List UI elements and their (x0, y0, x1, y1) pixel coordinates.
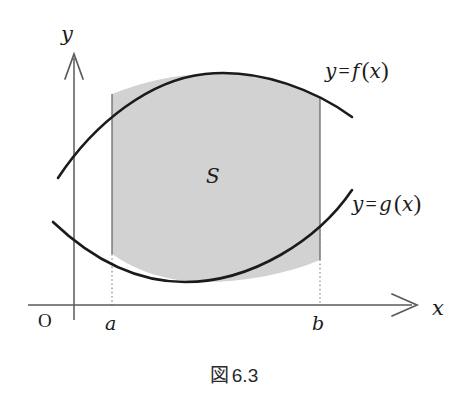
curve-label-g-open-paren: ( (392, 191, 402, 216)
figure-caption-number: 6.3 (229, 365, 258, 386)
curve-label-g-arg: x (402, 192, 413, 216)
tick-label-b: b (312, 312, 324, 334)
x-axis-label: x (432, 296, 444, 320)
curve-label-f-var: y (325, 59, 337, 83)
y-axis-label: y (61, 22, 73, 46)
figure-caption: 図6.3 (0, 360, 468, 387)
tick-label-a: a (105, 312, 116, 334)
curve-label-f: y=f (x) (325, 58, 389, 84)
curve-label-f-close-paren: ) (381, 58, 389, 83)
figure-caption-symbol: 図 (210, 364, 229, 386)
curve-label-g: y=g (x) (352, 191, 421, 217)
curve-label-f-fn: f (352, 59, 360, 83)
region-label-s: S (206, 164, 220, 188)
curve-label-g-eq: = (364, 193, 379, 215)
curve-label-f-eq: = (337, 60, 352, 82)
curve-label-g-close-paren: ) (413, 191, 421, 216)
curve-label-f-arg: x (370, 59, 381, 83)
curve-label-g-var: y (352, 192, 364, 216)
origin-label: O (38, 310, 52, 332)
curve-label-g-fn: g (379, 192, 392, 216)
curve-label-f-open-paren: ( (360, 58, 370, 83)
figure-container: y x O a b S y=f (x) y=g (x) 図6.3 (0, 0, 468, 405)
